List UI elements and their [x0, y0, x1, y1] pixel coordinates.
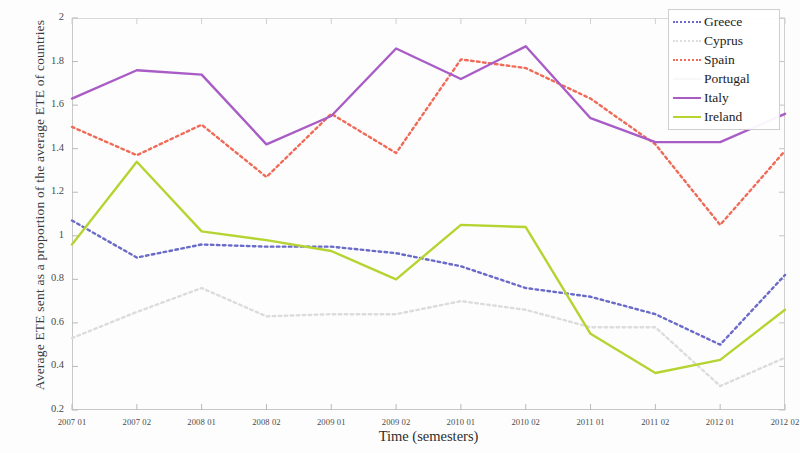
x-tick-label: 2012 01 [690, 417, 750, 427]
legend-swatch-cyprus [673, 36, 701, 46]
x-tick-label: 2010 02 [496, 417, 556, 427]
x-tick-label: 2008 01 [172, 417, 232, 427]
legend-label: Cyprus [704, 31, 743, 50]
legend-item-portugal[interactable]: Portugal [673, 69, 775, 88]
chart-legend: GreeceCyprusSpainPortugalItalyIreland [668, 9, 780, 130]
legend-label: Ireland [704, 107, 742, 126]
y-tick-label: 0.4 [30, 359, 64, 370]
legend-swatch-spain [673, 55, 701, 65]
y-tick-label: 2 [30, 11, 64, 22]
legend-item-spain[interactable]: Spain [673, 50, 775, 69]
legend-item-ireland[interactable]: Ireland [673, 107, 775, 126]
legend-item-italy[interactable]: Italy [673, 88, 775, 107]
x-tick-label: 2009 02 [366, 417, 426, 427]
legend-item-greece[interactable]: Greece [673, 12, 775, 31]
x-tick-label: 2011 01 [561, 417, 621, 427]
series-line-cyprus [72, 288, 785, 386]
y-tick-label: 0.8 [30, 272, 64, 283]
x-tick-label: 2007 01 [42, 417, 102, 427]
x-axis-label: Time (semesters) [72, 428, 785, 445]
series-line-ireland [72, 162, 785, 373]
x-tick-label: 2007 02 [107, 417, 167, 427]
y-tick-label: 1.4 [30, 142, 64, 153]
legend-swatch-portugal [673, 74, 701, 84]
x-tick-label: 2009 01 [301, 417, 361, 427]
legend-label: Portugal [704, 69, 750, 88]
y-tick-label: 1.6 [30, 98, 64, 109]
legend-label: Greece [704, 12, 742, 31]
legend-label: Spain [704, 50, 735, 69]
legend-swatch-italy [673, 93, 701, 103]
x-tick-label: 2011 02 [625, 417, 685, 427]
chart-canvas: Average ETE sent as a proportion of the … [0, 0, 800, 453]
y-tick-label: 0.2 [30, 403, 64, 414]
legend-item-cyprus[interactable]: Cyprus [673, 31, 775, 50]
x-tick-label: 2012 02 [755, 417, 800, 427]
y-tick-label: 1 [30, 229, 64, 240]
series-line-greece [72, 221, 785, 345]
x-tick-label: 2008 02 [236, 417, 296, 427]
y-tick-label: 0.6 [30, 316, 64, 327]
x-tick-label: 2010 01 [431, 417, 491, 427]
legend-swatch-greece [673, 17, 701, 27]
y-tick-label: 1.8 [30, 55, 64, 66]
legend-swatch-ireland [673, 112, 701, 122]
y-tick-label: 1.2 [30, 185, 64, 196]
legend-label: Italy [704, 88, 729, 107]
